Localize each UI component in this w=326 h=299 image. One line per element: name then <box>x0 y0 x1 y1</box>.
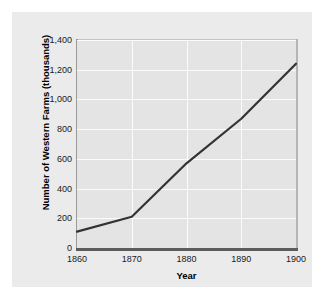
x-tick-label: 1870 <box>109 255 155 264</box>
x-tick-label: 1860 <box>54 255 100 264</box>
y-tick-label: 1,400 <box>28 36 72 45</box>
y-tick-label: 400 <box>28 185 72 194</box>
y-tick-label: 600 <box>28 155 72 164</box>
x-axis-title: Year <box>77 270 296 281</box>
plot-area <box>77 40 296 248</box>
x-tick-label: 1900 <box>273 255 319 264</box>
data-line-series <box>77 40 296 248</box>
y-tick-label: 0 <box>28 244 72 253</box>
y-tick-label: 200 <box>28 214 72 223</box>
chart-figure-card: Number of Western Farms (thousands) 0200… <box>12 12 312 287</box>
x-axis-line <box>76 248 298 251</box>
x-axis-tick-labels: 18601870188018901900 <box>77 255 296 267</box>
y-axis-tick-labels: 02004006008001,0001,2001,400 <box>26 40 72 248</box>
x-tick-label: 1880 <box>164 255 210 264</box>
plot-right-edge <box>296 39 298 249</box>
y-tick-label: 800 <box>28 125 72 134</box>
y-tick-label: 1,000 <box>28 95 72 104</box>
x-tick-label: 1890 <box>218 255 264 264</box>
y-tick-label: 1,200 <box>28 66 72 75</box>
